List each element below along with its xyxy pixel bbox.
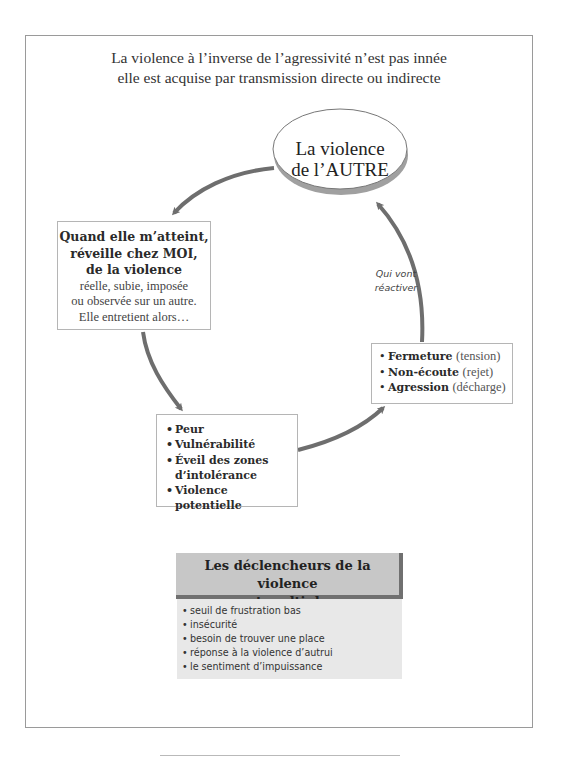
- ellipse-label: La violence de l’AUTRE: [276, 138, 404, 180]
- ellipse-line-1: La violence: [276, 138, 404, 159]
- emotion-item: Éveil des zones d’intolérance: [166, 453, 297, 484]
- moi-box: Quand elle m’atteint, réveille chez MOI,…: [57, 221, 211, 330]
- emotions-box: Peur Vulnérabilité Éveil des zones d’int…: [156, 414, 298, 507]
- reactions-box: Fermeture (tension) Non-écoute (rejet) A…: [371, 343, 513, 404]
- reaction-item: Fermeture (tension): [379, 349, 512, 365]
- emotion-item: Vulnérabilité: [166, 437, 297, 452]
- triggers-title: Les déclencheurs de la violence sont mul…: [176, 553, 403, 599]
- moi-normal-1: réelle, subie, imposée: [58, 279, 210, 295]
- arrow-label-line-1: Qui vont: [368, 267, 424, 281]
- reaction-item: Non-écoute (rejet): [379, 365, 512, 381]
- arrow-label: Qui vont réactiver: [368, 267, 424, 295]
- footer-rule: [160, 755, 400, 756]
- moi-bold-1: Quand elle m’atteint,: [58, 229, 210, 246]
- arrow-label-line-2: réactiver: [368, 281, 424, 295]
- emotion-item: Peur: [166, 422, 297, 437]
- reaction-item: Agression (décharge): [379, 380, 512, 396]
- ellipse-line-2: de l’AUTRE: [276, 159, 404, 180]
- arrow-moi-to-emotions: [143, 332, 181, 409]
- trigger-item: insécurité: [182, 618, 402, 632]
- moi-bold-3: de la violence: [58, 262, 210, 279]
- arrow-autre-to-moi: [174, 168, 274, 213]
- moi-normal-3: Elle entretient alors…: [58, 310, 210, 326]
- trigger-item: le sentiment d’impuissance: [182, 660, 402, 674]
- emotion-item: Violence potentielle: [166, 483, 297, 514]
- triggers-title-line-1: Les déclencheurs de la violence: [176, 557, 399, 593]
- trigger-item: seuil de frustration bas: [182, 604, 402, 618]
- moi-bold-2: réveille chez MOI,: [58, 246, 210, 263]
- arrow-emotions-to-reactions: [298, 408, 383, 450]
- trigger-item: réponse à la violence d’autrui: [182, 646, 402, 660]
- moi-normal-2: ou observée sur un autre.: [58, 294, 210, 310]
- triggers-list: seuil de frustration bas insécurité beso…: [177, 599, 402, 679]
- trigger-item: besoin de trouver une place: [182, 632, 402, 646]
